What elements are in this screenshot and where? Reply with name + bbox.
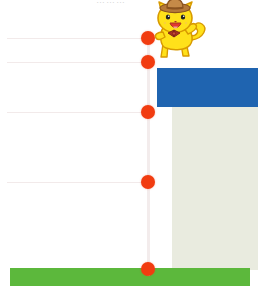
data-point-marker[interactable]: [141, 105, 155, 119]
vertical-axis-stem: [147, 35, 150, 276]
gray-block: [172, 107, 258, 270]
cat-mascot-icon: [146, 0, 212, 64]
blue-block: [157, 68, 258, 107]
data-point-marker[interactable]: [141, 262, 155, 276]
green-band: [10, 268, 250, 286]
gridline: [7, 182, 148, 183]
data-point-marker[interactable]: [141, 175, 155, 189]
chart-canvas: ………: [0, 0, 258, 296]
gridline: [7, 112, 148, 113]
gridline: [7, 38, 148, 39]
gridline: [7, 62, 148, 63]
